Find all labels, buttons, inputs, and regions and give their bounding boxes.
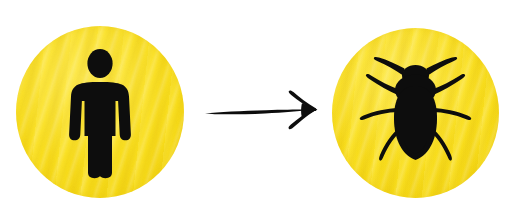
- scene-canvas: [0, 0, 521, 218]
- cockroach-icon: [332, 28, 499, 198]
- human-figure-badge: [16, 26, 184, 198]
- transformation-arrow: [196, 82, 320, 140]
- bug-figure-badge: [332, 28, 499, 198]
- person-pictogram-icon: [16, 26, 184, 198]
